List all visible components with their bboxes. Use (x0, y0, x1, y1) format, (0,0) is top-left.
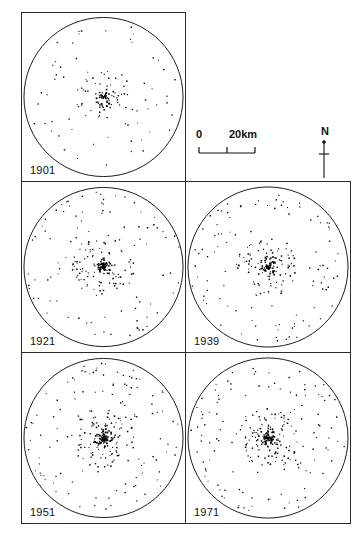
map-dot (112, 278, 114, 280)
map-dot (77, 275, 78, 276)
map-dot (87, 284, 88, 285)
map-dot (32, 423, 33, 424)
map-dot (210, 215, 211, 216)
map-dot (252, 461, 253, 462)
map-dot (276, 442, 277, 443)
map-dot (108, 77, 110, 79)
map-dot (96, 427, 98, 429)
map-dot (292, 327, 293, 328)
map-dot (133, 437, 134, 438)
map-dot (284, 421, 285, 422)
map-dot (141, 211, 142, 212)
map-dot (262, 436, 263, 437)
map-dot (97, 368, 98, 369)
map-dot (244, 261, 245, 262)
map-dot (90, 251, 91, 252)
map-dot (39, 458, 40, 459)
map-dot (103, 437, 104, 438)
map-dot (245, 420, 246, 421)
map-panel-1971[interactable]: 1971 (185, 352, 351, 524)
map-dot (92, 255, 93, 256)
map-dot (88, 272, 89, 273)
map-dot (152, 57, 153, 58)
map-dot (141, 139, 142, 140)
map-dot (317, 216, 318, 217)
map-dot (55, 61, 56, 62)
map-dot (105, 98, 107, 100)
map-dot (76, 268, 78, 270)
map-dot (224, 490, 225, 491)
map-dot (146, 326, 147, 327)
map-dot (277, 250, 278, 251)
map-dot (265, 262, 266, 263)
map-dot (124, 93, 125, 94)
map-dot (201, 411, 202, 412)
map-dot (35, 470, 36, 471)
map-dot (162, 411, 163, 412)
map-dot (28, 285, 29, 286)
map-dot (102, 391, 103, 392)
map-dot (115, 195, 116, 196)
map-dot (108, 252, 110, 254)
map-dot (85, 79, 86, 80)
map-dot (258, 456, 259, 457)
map-dot (236, 264, 237, 265)
map-dot (53, 483, 54, 484)
map-dot (60, 409, 61, 410)
map-dot (126, 80, 128, 82)
map-panel-1901[interactable]: 1901 (21, 12, 186, 182)
map-dot (265, 443, 266, 444)
map-dot (127, 94, 128, 95)
map-dot (97, 436, 98, 437)
map-dot (78, 444, 80, 446)
map-dot (95, 497, 96, 498)
map-dot (99, 290, 100, 291)
map-dot (217, 210, 218, 211)
map-dot (207, 280, 208, 281)
map-dot (81, 370, 82, 371)
map-dot (249, 261, 250, 262)
map-dot (263, 434, 264, 435)
map-dot (90, 444, 91, 445)
map-dot (114, 92, 115, 93)
map-dot (67, 201, 68, 202)
map-dot (63, 76, 64, 77)
map-dot (106, 270, 107, 271)
map-dot (60, 66, 61, 67)
map-dot (286, 248, 287, 249)
map-panel-1951[interactable]: 1951 (21, 352, 186, 524)
map-dot (78, 106, 79, 107)
map-dot (268, 499, 269, 500)
map-dot (272, 252, 274, 254)
map-dot (241, 425, 242, 426)
map-dot (45, 230, 46, 231)
map-panel-1921[interactable]: 1921 (21, 181, 186, 353)
map-dot (72, 270, 73, 271)
map-dot (224, 497, 225, 498)
map-dot (291, 426, 292, 427)
map-dot (133, 34, 134, 35)
map-dot (76, 261, 77, 262)
map-dot (331, 305, 332, 306)
map-dot (108, 262, 110, 264)
map-dot (243, 507, 244, 508)
map-dot (130, 266, 131, 267)
map-dot (103, 242, 105, 244)
map-dot (156, 104, 157, 105)
map-panel-1939[interactable]: 1939 (185, 181, 351, 353)
map-dot (97, 101, 98, 102)
map-dot (96, 102, 97, 103)
map-dot (136, 320, 137, 321)
map-dot (278, 248, 279, 249)
map-dot (105, 364, 106, 365)
map-dot (106, 442, 108, 444)
map-dot (112, 385, 113, 386)
map-dot (274, 257, 275, 258)
map-dot (137, 387, 138, 388)
map-dot (91, 426, 92, 427)
map-dot (94, 441, 95, 442)
map-dot (106, 86, 107, 87)
map-dot (294, 326, 295, 327)
map-dot (312, 285, 313, 286)
map-dot (218, 233, 219, 234)
